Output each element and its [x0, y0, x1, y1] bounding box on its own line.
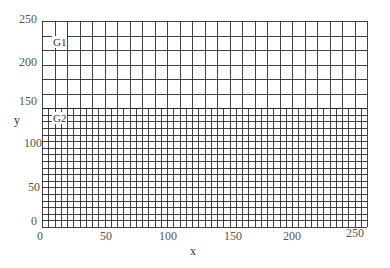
x-axis-label: x	[190, 244, 196, 259]
y-tick-50: 50	[10, 181, 40, 193]
y-tick-250: 250	[7, 13, 37, 25]
x-tick-0: 0	[25, 230, 55, 242]
x-tick-250: 250	[340, 227, 370, 239]
y-tick-200: 200	[7, 56, 37, 68]
x-tick-100: 100	[153, 230, 183, 242]
y-tick-100: 100	[12, 137, 42, 149]
x-tick-150: 150	[218, 230, 248, 242]
grid-figure: 250 200 150 100 50 0 0 50 100 150 200 25…	[0, 0, 390, 268]
y-tick-150: 150	[7, 95, 37, 107]
x-tick-50: 50	[91, 230, 121, 242]
x-tick-200: 200	[277, 230, 307, 242]
region-label-g2: G2	[52, 112, 67, 124]
y-tick-0: 0	[7, 215, 37, 227]
region-label-g1: G1	[52, 36, 67, 48]
y-axis-label: y	[14, 113, 20, 128]
